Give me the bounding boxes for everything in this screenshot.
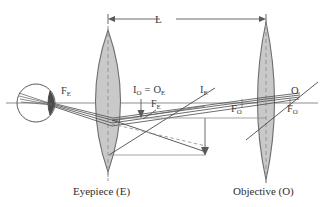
intermediate-image-pointer-arrow: [138, 99, 145, 118]
dimension-line-L: [108, 14, 266, 24]
dimension-arrow-right: [259, 16, 266, 22]
caption-eyepiece: Eyepiece (E): [73, 186, 130, 197]
virtual-ray-extension-dashed: [112, 124, 206, 146]
label-dimension-L: L: [155, 14, 162, 25]
optics-diagram-figure: FE IO=OE FE IE FO FO O L Eyepiece (E) Ob…: [0, 0, 324, 207]
label-eyepiece-focus-left: FE: [61, 86, 71, 98]
chief-ray-object-side: [246, 82, 318, 140]
eyepiece-lens: [96, 30, 121, 172]
label-intermediate-image: IO=OE: [133, 85, 165, 97]
ray-diagram-canvas: [0, 0, 324, 207]
marginal-ray-to-image-tip: [112, 120, 206, 152]
label-final-image: IE: [200, 85, 208, 97]
dimension-arrow-left: [108, 16, 115, 22]
label-object-point: O: [291, 86, 299, 97]
ray-bundle-eyepiece-to-objective: [112, 97, 267, 126]
label-objective-focus-left: FO: [231, 104, 242, 116]
caption-objective: Objective (O): [233, 186, 294, 197]
label-objective-focus-right: FO: [287, 104, 298, 116]
label-eyepiece-focus-inner: FE: [151, 99, 161, 111]
